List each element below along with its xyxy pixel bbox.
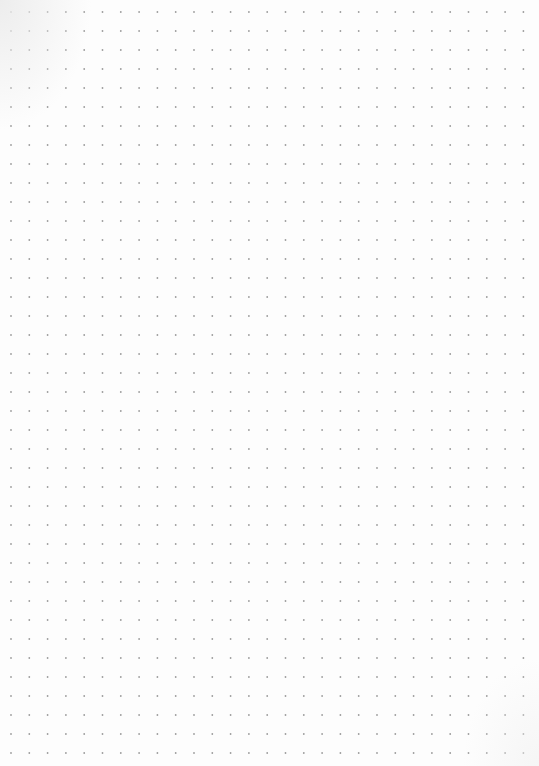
grid-dot [47,315,49,317]
grid-dot [376,11,378,13]
grid-dot [138,638,140,640]
grid-dot [431,657,433,659]
grid-dot [266,467,268,469]
grid-dot [413,11,415,13]
grid-dot [28,505,30,507]
grid-dot [431,30,433,32]
grid-dot [449,391,451,393]
grid-dot [413,315,415,317]
grid-dot [193,695,195,697]
grid-dot [413,49,415,51]
grid-dot [376,676,378,678]
grid-dot [303,334,305,336]
grid-dot [230,714,232,716]
grid-dot [394,467,396,469]
grid-dot [431,752,433,754]
grid-dot [230,448,232,450]
grid-dot [413,467,415,469]
dot-grid [0,0,539,766]
grid-dot [321,505,323,507]
grid-dot [28,467,30,469]
grid-dot [157,87,159,89]
grid-dot [413,600,415,602]
grid-dot [321,391,323,393]
grid-dot [340,714,342,716]
grid-dot [83,201,85,203]
grid-dot [10,372,12,374]
grid-dot [486,144,488,146]
grid-dot [340,182,342,184]
grid-dot [486,49,488,51]
grid-dot [376,277,378,279]
grid-dot [321,695,323,697]
grid-dot [193,144,195,146]
grid-dot [157,714,159,716]
grid-dot [523,163,525,165]
grid-dot [376,315,378,317]
grid-dot [340,695,342,697]
grid-dot [266,239,268,241]
grid-dot [10,695,12,697]
grid-dot [83,11,85,13]
grid-dot [394,315,396,317]
grid-dot [394,581,396,583]
grid-dot [102,372,104,374]
grid-dot [83,49,85,51]
grid-dot [449,733,451,735]
grid-dot [376,258,378,260]
grid-dot [376,201,378,203]
grid-dot [321,752,323,754]
grid-dot [266,334,268,336]
grid-dot [102,106,104,108]
grid-dot [83,68,85,70]
grid-dot [431,353,433,355]
grid-dot [102,581,104,583]
grid-dot [248,391,250,393]
grid-dot [10,410,12,412]
grid-dot [340,600,342,602]
grid-dot [358,296,360,298]
grid-dot [28,353,30,355]
grid-dot [248,600,250,602]
grid-dot [303,239,305,241]
grid-dot [10,296,12,298]
grid-dot [47,486,49,488]
grid-dot [10,144,12,146]
grid-dot [340,163,342,165]
grid-dot [523,391,525,393]
grid-dot [47,125,49,127]
grid-dot [486,486,488,488]
grid-dot [303,372,305,374]
grid-dot [431,695,433,697]
grid-dot [394,258,396,260]
grid-dot [285,334,287,336]
grid-dot [211,676,213,678]
grid-dot [340,638,342,640]
grid-dot [413,524,415,526]
grid-dot [175,258,177,260]
grid-dot [138,30,140,32]
grid-dot [102,220,104,222]
grid-dot [230,733,232,735]
grid-dot [65,600,67,602]
grid-dot [504,296,506,298]
grid-dot [394,68,396,70]
grid-dot [321,410,323,412]
grid-dot [175,87,177,89]
grid-dot [248,353,250,355]
grid-dot [431,543,433,545]
grid-dot [120,619,122,621]
grid-dot [266,505,268,507]
grid-dot [230,429,232,431]
grid-dot [266,144,268,146]
grid-dot [431,372,433,374]
grid-dot [65,619,67,621]
grid-dot [523,125,525,127]
grid-dot [468,524,470,526]
grid-dot [266,600,268,602]
grid-dot [431,106,433,108]
grid-dot [266,125,268,127]
grid-dot [138,182,140,184]
grid-dot [486,334,488,336]
grid-dot [358,524,360,526]
